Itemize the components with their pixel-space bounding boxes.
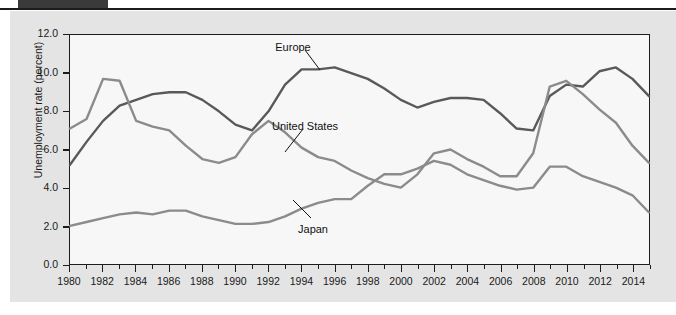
figure-page: Unemployment rate (percent) 0.02.04.06.0… bbox=[0, 0, 676, 315]
leader-lines bbox=[0, 0, 676, 315]
leader-line-japan bbox=[293, 200, 311, 218]
leader-line-europe bbox=[305, 50, 320, 70]
unemployment-rate-chart: Unemployment rate (percent) 0.02.04.06.0… bbox=[0, 0, 676, 315]
leader-line-united-states bbox=[285, 129, 303, 152]
